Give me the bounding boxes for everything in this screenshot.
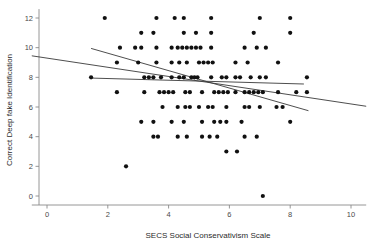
scatter-point (212, 120, 216, 124)
x-tick-label: 4 (167, 210, 171, 219)
scatter-point (243, 46, 247, 50)
scatter-point (247, 90, 251, 94)
scatter-point (170, 75, 174, 79)
scatter-point (103, 16, 107, 20)
scatter-point (195, 75, 199, 79)
scatter-point (255, 46, 259, 50)
scatter-point (176, 135, 180, 139)
scatter-point (170, 46, 174, 50)
scatter-point (233, 90, 237, 94)
scatter-point (220, 75, 224, 79)
scatter-point (221, 90, 225, 94)
scatter-point (294, 90, 298, 94)
scatter-point (133, 46, 137, 50)
scatter-point (198, 46, 202, 50)
scatter-point (151, 75, 155, 79)
scatter-point (160, 105, 164, 109)
scatter-point (182, 75, 186, 79)
regression-line-group-fit-steep (91, 48, 308, 110)
scatter-point (154, 46, 158, 50)
scatter-point (255, 135, 259, 139)
scatter-point (224, 149, 228, 153)
scatter-point (246, 60, 250, 64)
scatter-point (206, 105, 210, 109)
y-tick-label: 2 (29, 162, 33, 171)
scatter-point (252, 90, 256, 94)
scatter-point (176, 46, 180, 50)
scatter-point (183, 105, 187, 109)
scatter-point (264, 75, 268, 79)
y-tick-label: 10 (25, 43, 33, 52)
scatter-point (173, 16, 177, 20)
scatter-point (124, 164, 128, 168)
scatter-point (185, 46, 189, 50)
scatter-point (170, 60, 174, 64)
scatter-point (200, 135, 204, 139)
scatter-point (139, 120, 143, 124)
x-tick-label: 10 (347, 210, 355, 219)
scatter-point (215, 135, 219, 139)
scatter-point (170, 120, 174, 124)
scatter-point (288, 31, 292, 35)
scatter-point (261, 194, 265, 198)
scatter-point (258, 75, 262, 79)
scatter-point (305, 75, 309, 79)
scatter-point (154, 16, 158, 20)
scatter-point (258, 16, 262, 20)
scatter-point (201, 60, 205, 64)
scatter-point (183, 90, 187, 94)
scatter-point (159, 75, 163, 79)
y-tick-label: 6 (29, 103, 33, 112)
scatter-point (185, 135, 189, 139)
scatter-point (211, 60, 215, 64)
scatter-point (233, 60, 237, 64)
scatter-point (233, 75, 237, 79)
scatter-point (151, 31, 155, 35)
scatter-point (261, 90, 265, 94)
scatter-point (256, 90, 260, 94)
scatter-point (243, 90, 247, 94)
x-tick-label: 0 (45, 210, 49, 219)
y-tick-label: 8 (29, 73, 33, 82)
scatter-point (177, 75, 181, 79)
scatter-point (118, 46, 122, 50)
scatter-point (208, 135, 212, 139)
scatter-point (235, 149, 239, 153)
scatter-point (151, 135, 155, 139)
scatter-point (211, 105, 215, 109)
scatter-point (182, 31, 186, 35)
scatter-point (226, 90, 230, 94)
scatter-point (194, 31, 198, 35)
scatter-point (243, 105, 247, 109)
fit-lines (32, 48, 366, 110)
scatter-point (209, 31, 213, 35)
scatter-point (197, 60, 201, 64)
scatter-point (188, 105, 192, 109)
scatter-point (212, 90, 216, 94)
scatter-point (249, 75, 253, 79)
scatter-point (239, 120, 243, 124)
x-tick-label: 6 (227, 210, 231, 219)
scatter-point (142, 75, 146, 79)
scatter-point (157, 90, 161, 94)
scatter-point (200, 90, 204, 94)
scatter-point (209, 75, 213, 79)
scatter-point (194, 46, 198, 50)
scatter-point (185, 60, 189, 64)
scatter-point (136, 60, 140, 64)
scatter-point (115, 60, 119, 64)
scatter-point (274, 105, 278, 109)
scatter-point (224, 120, 228, 124)
scatter-point (151, 120, 155, 124)
scatter-point (156, 135, 160, 139)
y-tick-label: 4 (29, 132, 33, 141)
scatter-point (217, 90, 221, 94)
scatter-point (281, 105, 285, 109)
scatter-plot-figure: 0246810024681012 SECS Social Conservativ… (0, 0, 378, 245)
scatter-point (182, 16, 186, 20)
data-points (89, 16, 309, 198)
scatter-point (224, 105, 228, 109)
scatter-point (188, 90, 192, 94)
scatter-point (276, 60, 280, 64)
y-axis-title: Correct Deep fake Identification (5, 54, 14, 166)
